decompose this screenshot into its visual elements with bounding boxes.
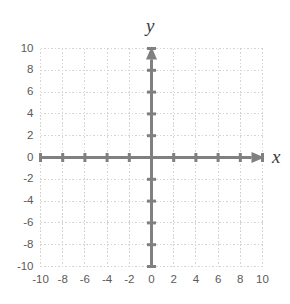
y-axis-tick-label: -4 (23, 194, 34, 206)
y-axis-tick-label: -2 (23, 172, 33, 184)
x-axis-tick-label: 8 (237, 273, 243, 285)
y-axis-name-label: y (144, 15, 155, 36)
y-axis-tick-label: 0 (27, 151, 33, 163)
x-axis-tick-label: -2 (124, 273, 134, 285)
x-axis-tick-label: 10 (256, 273, 269, 285)
y-axis-tick-label: 4 (27, 107, 34, 119)
figure-background (0, 0, 290, 304)
x-axis-tick-label: -8 (58, 273, 68, 285)
x-axis-tick-label: -10 (32, 273, 49, 285)
x-axis-tick-label: 0 (148, 273, 154, 285)
x-axis-tick-label: 4 (193, 273, 200, 285)
x-axis-tick-label: -4 (102, 273, 113, 285)
y-axis-tick-label: -8 (23, 238, 33, 250)
coordinate-plane-svg: -10-8-6-4-20246810 -10-8-6-4-20246810 x … (0, 0, 290, 304)
y-axis-tick-label: 2 (27, 129, 33, 141)
y-axis-tick-label: 10 (21, 42, 34, 54)
x-axis-name-label: x (271, 146, 281, 167)
y-axis-tick-label: 6 (27, 85, 33, 97)
x-axis-tick-label: 6 (215, 273, 221, 285)
y-axis-tick-label: 8 (27, 63, 33, 75)
y-axis-tick-label: -10 (17, 260, 34, 272)
coordinate-plane-figure: -10-8-6-4-20246810 -10-8-6-4-20246810 x … (0, 0, 290, 304)
x-axis-tick-label: 2 (170, 273, 176, 285)
y-axis-tick-label: -6 (23, 216, 33, 228)
x-axis-tick-label: -6 (80, 273, 90, 285)
